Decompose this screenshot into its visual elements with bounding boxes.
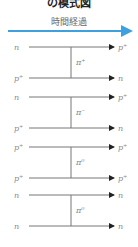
exchange-diagram: np⁺p⁺nπ⁺np⁺p⁺nπ⁻p⁺p⁺p⁺p⁺π⁰nnnnπ⁰ — [0, 0, 138, 247]
exchange-panel: np⁺p⁺nπ⁺ — [14, 43, 127, 83]
bottom-out-label: n — [118, 124, 123, 133]
top-in-label: n — [14, 93, 19, 102]
exchange-label: π⁰ — [75, 206, 85, 215]
bottom-in-label: p⁺ — [14, 174, 23, 183]
bottom-in-label: p⁺ — [14, 74, 23, 83]
bottom-out-label: n — [118, 74, 123, 83]
top-out-label: p⁺ — [118, 93, 127, 102]
bottom-in-label: p⁺ — [14, 124, 23, 133]
exchange-label: π⁰ — [75, 158, 85, 167]
top-out-label: p⁺ — [118, 43, 127, 52]
top-in-label: p⁺ — [14, 143, 23, 152]
top-out-label: p⁺ — [118, 143, 127, 152]
top-in-label: n — [14, 191, 19, 200]
top-in-label: n — [14, 43, 19, 52]
exchange-panel: nnnnπ⁰ — [14, 191, 123, 231]
exchange-label: π⁺ — [75, 58, 85, 67]
exchange-panel: p⁺p⁺p⁺p⁺π⁰ — [14, 143, 127, 183]
bottom-in-label: n — [14, 222, 19, 231]
top-out-label: n — [118, 191, 123, 200]
bottom-out-label: n — [118, 222, 123, 231]
exchange-panel: np⁺p⁺nπ⁻ — [14, 93, 127, 133]
exchange-label: π⁻ — [75, 108, 85, 117]
bottom-out-label: p⁺ — [118, 174, 127, 183]
